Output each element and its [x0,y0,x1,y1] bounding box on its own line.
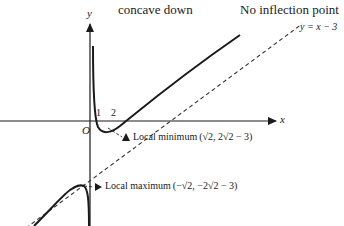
local-max-point: (−√2, −2√2 − 3) [173,181,238,191]
concavity-label: concave down [118,3,193,16]
tick-label-1: 1 [96,108,101,118]
local-min-annotation: Local minimum (√2, 2√2 − 3) [133,132,252,142]
local-max-text: Local maximum [105,181,171,191]
origin-label: O [82,125,90,136]
inflection-label: No inflection point [240,3,339,16]
local-min-arrow-icon [122,133,130,141]
local-max-annotation: Local maximum (−√2, −2√2 − 3) [105,181,237,191]
asymptote-line [26,24,302,226]
graph-canvas [0,0,344,226]
tick-label-2: 2 [111,108,116,118]
local-min-point: (√2, 2√2 − 3) [199,132,252,142]
curve-left-branch [34,185,89,226]
local-max-arrow-icon [95,183,102,191]
asymptote-label: y = x − 3 [300,22,337,32]
x-axis-label: x [280,114,285,125]
local-min-text: Local minimum [133,132,197,142]
y-axis-label: y [87,8,92,19]
